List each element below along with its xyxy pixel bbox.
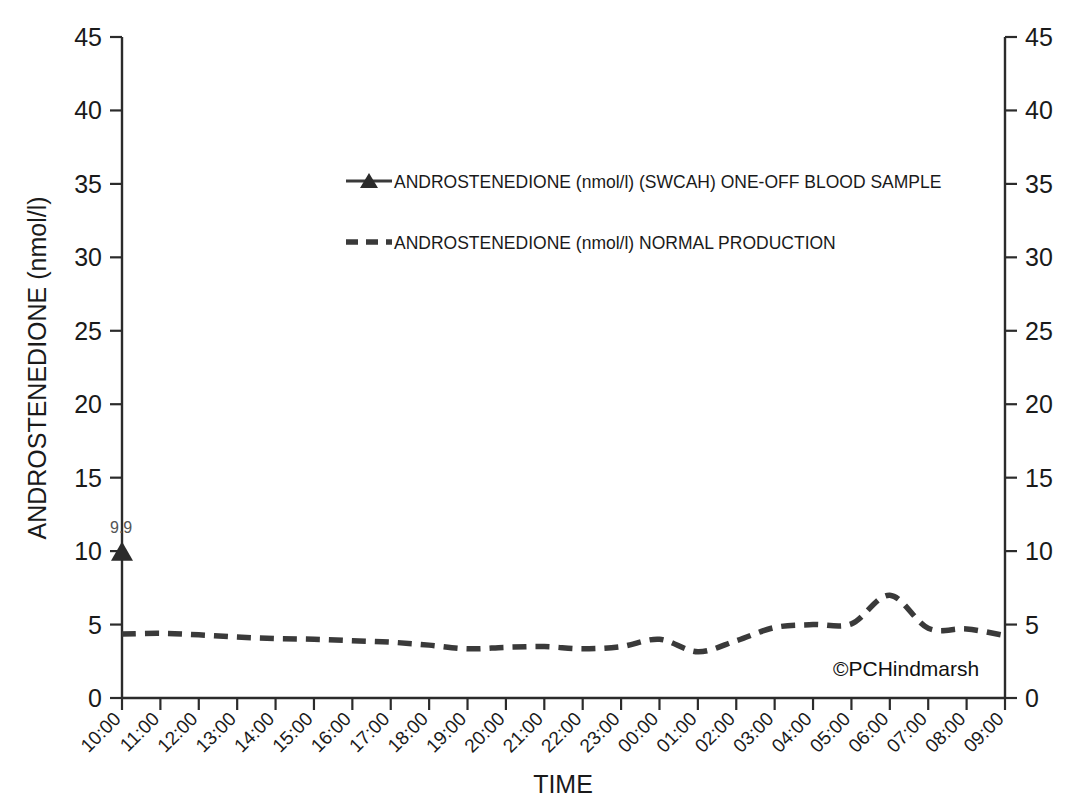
y-axis-title: ANDROSTENEDIONE (nmol/l) (23, 196, 51, 539)
chart-background (0, 0, 1091, 806)
x-axis-title: TIME (533, 770, 593, 798)
y-tick-label-right: 5 (1025, 611, 1039, 639)
y-tick-label-left: 30 (74, 243, 102, 271)
legend-label-oneoff: ANDROSTENEDIONE (nmol/l) (SWCAH) ONE-OFF… (394, 172, 941, 192)
y-tick-label-left: 25 (74, 317, 102, 345)
y-tick-label-right: 0 (1025, 684, 1039, 712)
y-tick-label-right: 25 (1025, 317, 1053, 345)
y-tick-label-right: 10 (1025, 537, 1053, 565)
y-tick-label-left: 40 (74, 96, 102, 124)
y-tick-label-right: 35 (1025, 170, 1053, 198)
y-tick-label-right: 30 (1025, 243, 1053, 271)
y-tick-label-right: 20 (1025, 390, 1053, 418)
androstenedione-time-chart: 051015202530354045 051015202530354045 10… (0, 0, 1091, 806)
y-tick-label-right: 45 (1025, 23, 1053, 51)
y-tick-label-left: 35 (74, 170, 102, 198)
chart-container: 051015202530354045 051015202530354045 10… (0, 0, 1091, 806)
y-tick-label-left: 5 (88, 611, 102, 639)
legend-label-normal: ANDROSTENEDIONE (nmol/l) NORMAL PRODUCTI… (394, 233, 836, 253)
y-tick-label-left: 15 (74, 464, 102, 492)
copyright-watermark: ©PCHindmarsh (833, 657, 979, 680)
y-tick-label-left: 45 (74, 23, 102, 51)
y-tick-label-right: 15 (1025, 464, 1053, 492)
data-point-value-label: 9.9 (110, 519, 132, 536)
y-tick-label-left: 10 (74, 537, 102, 565)
y-tick-label-right: 40 (1025, 96, 1053, 124)
y-tick-label-left: 0 (88, 684, 102, 712)
y-tick-label-left: 20 (74, 390, 102, 418)
